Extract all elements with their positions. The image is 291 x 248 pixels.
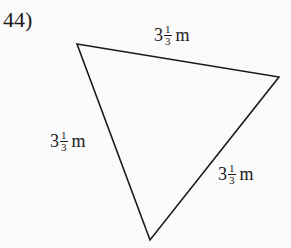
denominator: 3 [229, 175, 235, 186]
whole-number: 3 [50, 133, 59, 150]
side-label-right: 3 1 3 m [218, 163, 254, 186]
side-label-top: 3 1 3 m [154, 24, 190, 47]
triangle-figure [0, 0, 291, 248]
unit: m [176, 27, 190, 44]
unit: m [240, 166, 254, 183]
whole-number: 3 [154, 27, 163, 44]
denominator: 3 [61, 142, 67, 153]
fraction: 1 3 [60, 130, 68, 153]
fraction: 1 3 [164, 24, 172, 47]
unit: m [72, 133, 86, 150]
side-label-left: 3 1 3 m [50, 130, 86, 153]
whole-number: 3 [218, 166, 227, 183]
fraction: 1 3 [228, 163, 236, 186]
denominator: 3 [165, 36, 171, 47]
triangle-shape [77, 44, 279, 240]
